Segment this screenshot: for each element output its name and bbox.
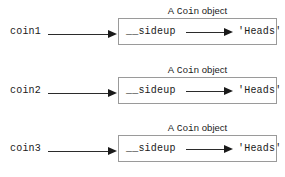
arrow-shaft <box>48 93 110 94</box>
variable-label: coin1 <box>10 25 41 38</box>
object-caption: A Coin object <box>118 122 277 134</box>
object-row: A Coin object coin1 __sideup 'Heads' <box>0 0 285 59</box>
arrow-head <box>224 145 233 153</box>
object-row: A Coin object coin2 __sideup 'Heads' <box>0 59 285 118</box>
attribute-value-arrow-icon <box>186 87 234 96</box>
attribute-value-arrow-icon <box>186 28 234 37</box>
arrow-shaft <box>186 32 226 33</box>
arrow-head <box>108 147 117 155</box>
object-box: __sideup 'Heads' <box>118 18 277 45</box>
arrow-shaft <box>186 149 226 150</box>
arrow-shaft <box>48 34 110 35</box>
attribute-value-arrow-icon <box>186 145 234 154</box>
attribute-name: __sideup <box>126 142 176 155</box>
attribute-value: 'Heads' <box>238 84 281 97</box>
object-caption: A Coin object <box>118 64 277 76</box>
variable-label: coin3 <box>10 142 41 155</box>
object-box: __sideup 'Heads' <box>118 135 277 162</box>
reference-arrow-icon <box>48 147 118 156</box>
arrow-shaft <box>48 151 110 152</box>
variable-label: coin2 <box>10 84 41 97</box>
caption-class-name: Coin <box>177 65 199 76</box>
reference-arrow-icon <box>48 89 118 98</box>
attribute-name: __sideup <box>126 84 176 97</box>
attribute-value: 'Heads' <box>238 25 281 38</box>
object-box: __sideup 'Heads' <box>118 77 277 104</box>
caption-suffix: object <box>202 64 227 75</box>
object-caption: A Coin object <box>118 5 277 17</box>
object-reference-diagram: A Coin object coin1 __sideup 'Heads' A C… <box>0 0 285 177</box>
caption-suffix: object <box>202 5 227 16</box>
arrow-head <box>108 30 117 38</box>
arrow-head <box>224 87 233 95</box>
caption-suffix: object <box>202 122 227 133</box>
caption-class-name: Coin <box>177 6 199 17</box>
object-row: A Coin object coin3 __sideup 'Heads' <box>0 117 285 176</box>
arrow-shaft <box>186 91 226 92</box>
reference-arrow-icon <box>48 30 118 39</box>
arrow-head <box>224 28 233 36</box>
attribute-name: __sideup <box>126 25 176 38</box>
attribute-value: 'Heads' <box>238 142 281 155</box>
arrow-head <box>108 89 117 97</box>
caption-class-name: Coin <box>177 123 199 134</box>
